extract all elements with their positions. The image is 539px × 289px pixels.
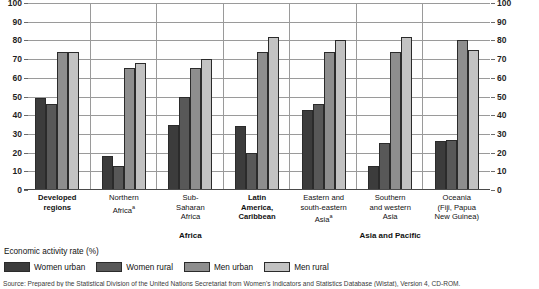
region-band-label: Africa: [91, 231, 291, 240]
region-band-label: Asia and Pacific: [290, 231, 490, 240]
legend-item: Men rural: [264, 262, 329, 272]
chart-legend: Women urbanWomen ruralMen urbanMen rural: [4, 262, 340, 272]
legend-item: Women urban: [4, 262, 85, 272]
y-tick-mark-right: [491, 78, 495, 79]
legend-swatch: [184, 262, 210, 272]
y-tick-mark-right: [491, 115, 495, 116]
legend-item: Women rural: [96, 262, 173, 272]
y-tick-label-right: 50: [497, 93, 519, 101]
legend-title: Economic activity rate (%): [4, 247, 99, 256]
y-tick-mark-right: [491, 97, 495, 98]
legend-swatch: [264, 262, 290, 272]
y-tick-label-right: 10: [497, 167, 519, 175]
y-tick-label-right: 80: [497, 36, 519, 44]
legend-label: Women urban: [34, 263, 85, 272]
y-tick-label-right: 30: [497, 130, 519, 138]
legend-swatch: [4, 262, 30, 272]
chart-page: 0102030405060708090100 01020304050607080…: [0, 0, 539, 289]
legend-item: Men urban: [184, 262, 253, 272]
y-tick-label-right: 0: [497, 186, 519, 194]
source-note: Source: Prepared by the Statistical Divi…: [3, 280, 539, 287]
y-tick-label-right: 40: [497, 111, 519, 119]
legend-label: Women rural: [126, 263, 173, 272]
y-tick-mark-right: [491, 134, 495, 135]
y-tick-label-right: 90: [497, 18, 519, 26]
y-tick-mark-right: [491, 3, 495, 4]
y-tick-label-right: 70: [497, 55, 519, 63]
region-bands: AfricaAsia and Pacific: [24, 231, 490, 243]
y-axis-right: 0102030405060708090100: [0, 0, 539, 195]
y-tick-mark-right: [491, 22, 495, 23]
y-tick-mark-right: [491, 190, 495, 191]
y-tick-label-right: 60: [497, 74, 519, 82]
y-tick-mark-right: [491, 171, 495, 172]
y-tick-mark-right: [491, 40, 495, 41]
y-tick-label-right: 100: [497, 0, 519, 7]
legend-label: Men urban: [214, 263, 253, 272]
y-tick-mark-right: [491, 153, 495, 154]
y-tick-label-right: 20: [497, 149, 519, 157]
y-tick-mark-right: [491, 59, 495, 60]
legend-swatch: [96, 262, 122, 272]
legend-label: Men rural: [294, 263, 329, 272]
